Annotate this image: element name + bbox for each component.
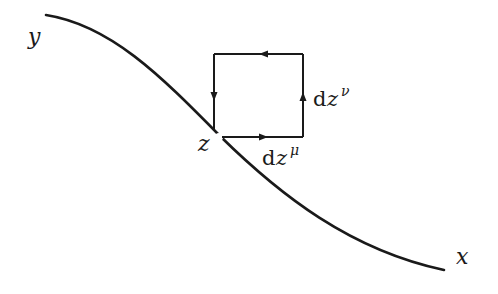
arrow-down-icon <box>211 92 218 101</box>
loop-square <box>214 54 303 137</box>
curve-gap <box>215 133 223 141</box>
arrow-up-icon <box>300 92 307 101</box>
dz-mu-label: d z μ <box>262 142 299 170</box>
dz-nu-d: d <box>313 87 326 111</box>
arrow-left-icon <box>259 51 268 58</box>
dz-mu-sup: μ <box>290 142 299 158</box>
y-axis-label: y <box>27 24 41 49</box>
x-axis-label: x <box>456 244 469 269</box>
dz-mu-z: z <box>275 146 288 170</box>
point-z-label: z <box>197 131 210 156</box>
arrow-right-icon <box>259 134 268 141</box>
dz-nu-label: d z ν <box>313 83 350 111</box>
dz-nu-sup: ν <box>341 83 350 99</box>
dz-nu-z: z <box>326 87 339 111</box>
dz-mu-d: d <box>262 146 275 170</box>
diagram-canvas: y x z d z μ d z ν <box>0 0 498 294</box>
